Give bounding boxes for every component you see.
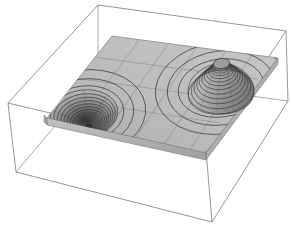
surface-plot-canvas — [0, 0, 291, 228]
surface-plot-figure: Three-dimensional surface plot of a two-… — [0, 0, 291, 228]
